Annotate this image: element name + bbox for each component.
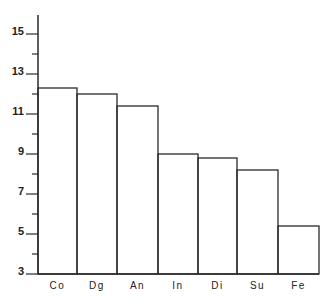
bar-fe <box>278 226 319 274</box>
bar-dg <box>77 94 117 274</box>
x-category-label: Fe <box>291 280 306 291</box>
x-category-label: Di <box>211 280 223 291</box>
y-tick-label: 15 <box>12 25 24 37</box>
y-tick-label: 5 <box>18 225 24 237</box>
bar-in <box>158 154 198 274</box>
y-tick-label: 13 <box>12 65 24 77</box>
y-tick-label: 7 <box>18 185 24 197</box>
bar-chart: 3579111315 CoDgAnInDiSuFe <box>0 0 330 301</box>
x-category-label: In <box>172 280 183 291</box>
bar-an <box>117 106 158 274</box>
x-category-label: An <box>130 280 145 291</box>
y-tick-label: 9 <box>18 145 24 157</box>
x-axis-labels: CoDgAnInDiSuFe <box>50 280 306 291</box>
y-tick-label: 11 <box>12 105 24 117</box>
y-tick-label: 3 <box>18 265 24 277</box>
bar-co <box>38 88 77 274</box>
x-category-label: Dg <box>89 280 105 291</box>
x-category-label: Co <box>50 280 66 291</box>
y-axis: 3579111315 <box>12 15 38 277</box>
bar-su <box>237 170 278 274</box>
bar-di <box>198 158 237 274</box>
x-category-label: Su <box>250 280 265 291</box>
bars <box>38 88 319 274</box>
